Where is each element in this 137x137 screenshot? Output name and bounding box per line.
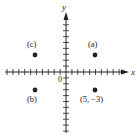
point-d: (5, −3) xyxy=(80,88,103,104)
axis-ticks xyxy=(7,25,119,131)
y-axis-label: y xyxy=(61,2,66,12)
y-axis-arrow-icon xyxy=(64,12,69,20)
point-a-label: (a) xyxy=(88,39,98,49)
point-d-label: (5, −3) xyxy=(80,94,103,104)
point-c: (c) xyxy=(27,39,37,57)
point-b-label: (b) xyxy=(27,94,37,104)
point-c-label: (c) xyxy=(27,39,37,49)
x-axis-label: x xyxy=(130,67,135,77)
point-b: (b) xyxy=(27,88,37,104)
coordinate-plane: x y 0 (a) (c) (b) (5, −3) xyxy=(0,0,137,137)
origin-label: 0 xyxy=(58,75,62,84)
point-a: (a) xyxy=(88,39,98,57)
x-axis-arrow-icon xyxy=(121,70,129,75)
